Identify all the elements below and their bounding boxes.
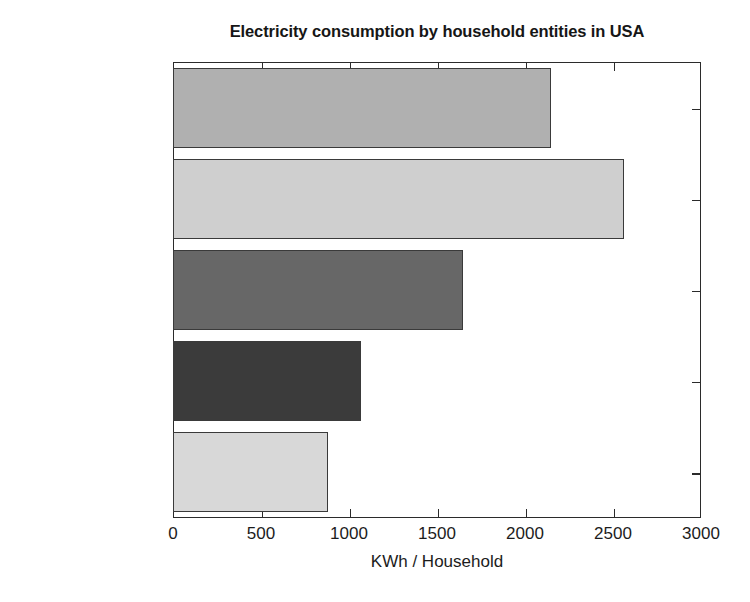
x-tick-label: 0 — [168, 524, 177, 544]
x-tick-label: 500 — [247, 524, 275, 544]
bar-air-conditioning — [173, 159, 624, 239]
x-tick-label: 1000 — [330, 524, 368, 544]
bar-fill — [173, 159, 624, 239]
y-tick-right — [692, 291, 700, 292]
x-tick-label: 2500 — [594, 524, 632, 544]
y-tick-right — [692, 382, 700, 383]
x-tick-top — [614, 63, 615, 71]
y-tick-right — [692, 473, 700, 474]
x-tick-bottom — [614, 509, 615, 517]
bar-refrigeration — [173, 432, 328, 512]
x-tick-label: 3000 — [682, 524, 720, 544]
bar-water-heating — [173, 341, 361, 421]
y-tick-right — [692, 200, 700, 201]
x-tick-bottom — [350, 509, 351, 517]
y-tick-right — [692, 109, 700, 110]
x-tick-label: 2000 — [506, 524, 544, 544]
bar-fill — [173, 250, 463, 330]
chart-figure: Electricity consumption by household ent… — [0, 0, 750, 602]
x-tick-label: 1500 — [418, 524, 456, 544]
x-tick-bottom — [526, 509, 527, 517]
bar-fill — [173, 341, 361, 421]
bar-fill — [173, 68, 551, 148]
x-tick-bottom — [438, 509, 439, 517]
bar-lighting — [173, 250, 463, 330]
chart-title: Electricity consumption by household ent… — [173, 22, 701, 41]
bar-fill — [173, 432, 328, 512]
bar-other — [173, 68, 551, 148]
x-axis-label: KWh / Household — [173, 552, 701, 572]
